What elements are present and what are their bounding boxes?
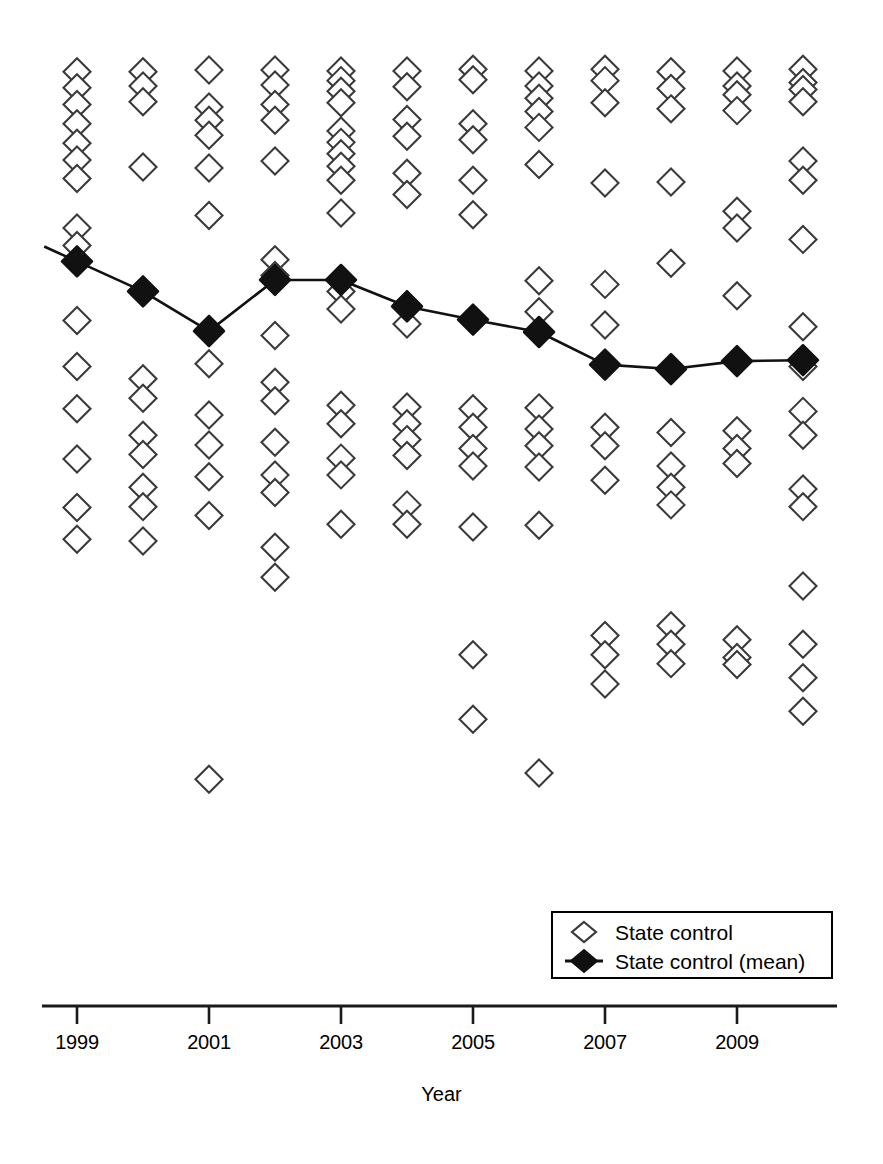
data-point-open-diamond: [658, 169, 685, 196]
data-point-open-diamond: [658, 250, 685, 277]
mean-line-group: [44, 246, 818, 384]
data-point-open-diamond: [196, 401, 223, 428]
data-point-open-diamond: [262, 147, 289, 174]
data-point-open-diamond: [64, 446, 91, 473]
data-point-open-diamond: [196, 154, 223, 181]
data-point-mean-diamond: [128, 276, 158, 306]
data-point-open-diamond: [790, 226, 817, 253]
x-axis-title: Year: [0, 1083, 883, 1106]
data-point-open-diamond: [130, 441, 157, 468]
data-point-open-diamond: [592, 467, 619, 494]
data-point-mean-diamond: [260, 265, 290, 295]
data-point-mean-diamond: [590, 350, 620, 380]
data-point-open-diamond: [724, 282, 751, 309]
data-point-mean-diamond: [458, 305, 488, 335]
data-point-open-diamond: [394, 442, 421, 469]
data-point-open-diamond: [394, 123, 421, 150]
data-point-open-diamond: [724, 450, 751, 477]
data-point-open-diamond: [592, 271, 619, 298]
data-point-open-diamond: [526, 760, 553, 787]
data-point-open-diamond: [328, 461, 355, 488]
mean-trend-line: [44, 247, 803, 369]
data-point-open-diamond: [130, 385, 157, 412]
data-point-open-diamond: [790, 631, 817, 658]
data-point-open-diamond: [460, 453, 487, 480]
data-point-open-diamond: [526, 114, 553, 141]
data-point-mean-diamond: [656, 354, 686, 384]
data-point-open-diamond: [460, 513, 487, 540]
x-axis-tick-label: 2001: [187, 1031, 231, 1054]
data-point-open-diamond: [394, 181, 421, 208]
filled-diamond-marker-group: [62, 246, 818, 384]
chart-figure: 199920012003200520072009 Year State cont…: [0, 0, 883, 1164]
data-point-open-diamond: [658, 95, 685, 122]
data-point-open-diamond: [526, 512, 553, 539]
data-point-open-diamond: [592, 432, 619, 459]
data-point-open-diamond: [658, 419, 685, 446]
data-point-open-diamond: [262, 429, 289, 456]
legend-label-state-control-mean: State control (mean): [615, 951, 805, 972]
data-point-open-diamond: [526, 151, 553, 178]
filled-diamond-line-icon: [553, 946, 615, 976]
data-point-open-diamond: [196, 57, 223, 84]
data-point-open-diamond: [196, 350, 223, 377]
legend-label-state-control: State control: [615, 922, 733, 943]
data-point-open-diamond: [130, 528, 157, 555]
chart-legend: State control State control (mean): [551, 911, 833, 979]
data-point-open-diamond: [196, 202, 223, 229]
x-axis-tick-label: 1999: [55, 1031, 99, 1054]
data-point-open-diamond: [460, 706, 487, 733]
data-point-open-diamond: [658, 491, 685, 518]
data-point-open-diamond: [460, 201, 487, 228]
open-diamond-marker-group: [64, 56, 817, 793]
x-axis-ticks: [77, 1006, 737, 1024]
data-point-open-diamond: [262, 107, 289, 134]
data-point-mean-diamond: [392, 291, 422, 321]
data-point-open-diamond: [130, 154, 157, 181]
x-axis-tick-label: 2003: [319, 1031, 363, 1054]
data-point-open-diamond: [790, 422, 817, 449]
data-point-open-diamond: [460, 126, 487, 153]
data-point-open-diamond: [64, 395, 91, 422]
data-point-open-diamond: [724, 214, 751, 241]
legend-item-state-control-mean[interactable]: State control (mean): [553, 946, 831, 976]
data-point-open-diamond: [64, 526, 91, 553]
data-point-open-diamond: [328, 296, 355, 323]
data-point-mean-diamond: [194, 316, 224, 346]
data-point-open-diamond: [592, 89, 619, 116]
data-point-mean-diamond: [62, 246, 92, 276]
data-point-open-diamond: [196, 463, 223, 490]
data-point-open-diamond: [130, 88, 157, 115]
data-point-open-diamond: [394, 511, 421, 538]
data-point-open-diamond: [328, 410, 355, 437]
data-point-open-diamond: [592, 641, 619, 668]
open-diamond-icon: [553, 917, 615, 947]
data-point-open-diamond: [790, 664, 817, 691]
data-point-open-diamond: [460, 167, 487, 194]
data-point-open-diamond: [592, 169, 619, 196]
x-axis-tick-label: 2009: [715, 1031, 759, 1054]
data-point-open-diamond: [130, 493, 157, 520]
data-point-open-diamond: [790, 167, 817, 194]
data-point-open-diamond: [262, 322, 289, 349]
data-point-open-diamond: [64, 353, 91, 380]
data-point-mean-diamond: [722, 346, 752, 376]
data-point-open-diamond: [328, 511, 355, 538]
data-point-open-diamond: [592, 311, 619, 338]
data-point-open-diamond: [526, 453, 553, 480]
data-point-open-diamond: [262, 387, 289, 414]
data-point-open-diamond: [790, 698, 817, 725]
data-point-open-diamond: [526, 267, 553, 294]
data-point-open-diamond: [460, 641, 487, 668]
legend-item-state-control[interactable]: State control: [553, 917, 831, 947]
data-point-open-diamond: [196, 122, 223, 149]
data-point-open-diamond: [196, 766, 223, 793]
data-point-open-diamond: [196, 431, 223, 458]
data-point-open-diamond: [196, 502, 223, 529]
data-point-open-diamond: [394, 73, 421, 100]
data-point-open-diamond: [790, 313, 817, 340]
data-point-open-diamond: [262, 534, 289, 561]
data-point-open-diamond: [64, 307, 91, 334]
x-axis-tick-label: 2007: [583, 1031, 627, 1054]
data-point-open-diamond: [658, 650, 685, 677]
